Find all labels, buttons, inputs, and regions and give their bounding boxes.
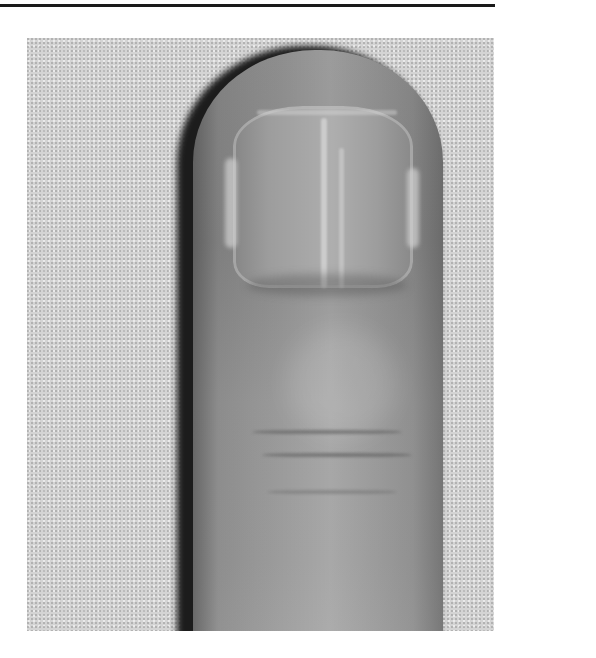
finger-photograph (27, 38, 494, 631)
knuckle-crease (267, 490, 397, 494)
knuckle-crease (252, 430, 402, 434)
skin-highlight (287, 328, 397, 438)
top-rule (0, 4, 495, 7)
nail-longitudinal-ridge (321, 118, 327, 288)
knuckle-crease (262, 453, 412, 457)
nail-distal-edge (257, 110, 397, 115)
nail-longitudinal-ridge (339, 148, 344, 288)
nail-lateral-edge-left (225, 158, 237, 248)
proximal-nail-fold (247, 274, 407, 296)
nail-lateral-edge-right (407, 168, 419, 248)
